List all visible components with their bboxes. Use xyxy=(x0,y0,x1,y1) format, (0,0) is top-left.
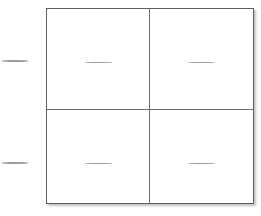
row-1-label-blank xyxy=(2,60,28,62)
cell-bottom-right xyxy=(150,110,253,203)
row-2-label-blank xyxy=(2,162,28,164)
punnett-square xyxy=(46,8,254,204)
cell-bottom-left-answer-blank xyxy=(85,163,112,165)
cell-bottom-right-answer-blank xyxy=(188,163,215,165)
cell-bottom-left xyxy=(47,110,150,203)
punnett-worksheet xyxy=(0,0,261,216)
cell-top-right-answer-blank xyxy=(188,62,215,64)
cell-top-left-answer-blank xyxy=(85,62,112,64)
cell-top-right xyxy=(150,9,253,110)
cell-top-left xyxy=(47,9,150,110)
